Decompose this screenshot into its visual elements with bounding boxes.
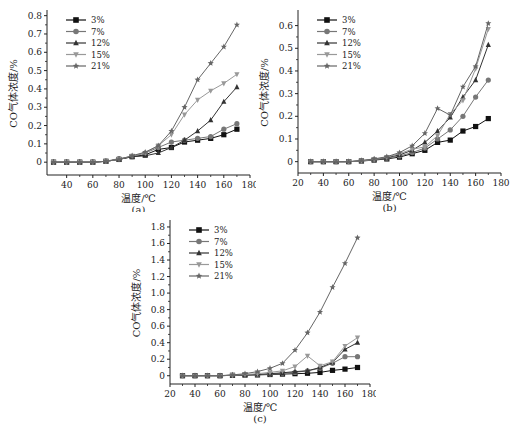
square-marker-icon (355, 365, 360, 370)
circle-marker-icon (342, 354, 347, 359)
chart-b-svg: 2040608010012014016018000.10.20.30.40.50… (256, 0, 513, 212)
series-3pct (51, 127, 240, 165)
y-tick-label: 0.4 (279, 66, 294, 76)
circle-marker-icon (355, 354, 360, 359)
star-marker-icon (485, 20, 491, 26)
legend-item: 12% (66, 38, 110, 48)
y-tick-label: 1.4 (151, 255, 166, 265)
legend: 3%7%12%15%21% (66, 15, 110, 71)
circle-marker-icon (195, 136, 200, 141)
circle-marker-icon (448, 127, 453, 132)
x-axis-title: 温度/℃ (372, 190, 407, 202)
y-tick-label: 0 (36, 157, 42, 167)
legend-label: 12% (342, 38, 361, 48)
circle-marker-icon (234, 121, 239, 126)
star-marker-icon (234, 22, 240, 28)
x-tick-label: 40 (189, 389, 201, 399)
x-tick-label: 120 (163, 180, 180, 190)
x-tick-label: 140 (311, 389, 328, 399)
star-marker-icon (435, 105, 441, 111)
legend-item: 21% (66, 61, 110, 71)
y-tick-label: 0.1 (28, 139, 42, 149)
triangle-marker-icon (473, 77, 478, 82)
series-line (311, 29, 489, 162)
circle-marker-icon (324, 29, 330, 35)
square-marker-icon (473, 124, 478, 129)
series-line (311, 23, 489, 161)
legend-item: 15% (317, 50, 361, 60)
star-marker-icon (221, 44, 227, 50)
legend-item: 7% (317, 27, 356, 37)
y-tick-label: 0.1 (279, 134, 293, 144)
x-tick-label: 20 (164, 389, 176, 399)
y-tick-label: 1.2 (151, 272, 165, 282)
x-tick-label: 40 (61, 180, 73, 190)
circle-marker-icon (169, 139, 174, 144)
x-tick-label: 100 (261, 389, 278, 399)
legend-item: 3% (189, 225, 228, 235)
tri-down-marker-icon (305, 354, 310, 359)
legend-item: 15% (189, 260, 233, 270)
circle-marker-icon (208, 134, 213, 139)
y-axis-title: CO气体浓度/% (258, 58, 270, 127)
x-tick-label: 100 (391, 178, 408, 188)
y-tick-label: 0.6 (151, 321, 166, 331)
x-tick-label: 160 (336, 389, 353, 399)
legend-label: 21% (214, 271, 233, 281)
x-tick-label: 140 (189, 180, 206, 190)
star-marker-icon (342, 260, 348, 266)
star-marker-icon (181, 104, 187, 110)
y-tick-label: 0 (159, 371, 165, 381)
circle-marker-icon (473, 94, 478, 99)
triangle-marker-icon (234, 84, 239, 89)
circle-marker-icon (486, 77, 491, 82)
y-tick-label: 0.4 (151, 338, 166, 348)
series-line (311, 45, 489, 162)
star-marker-icon (304, 330, 310, 336)
tri-down-marker-icon (234, 72, 239, 77)
legend: 3%7%12%15%21% (317, 15, 361, 71)
x-tick-label: 100 (137, 180, 154, 190)
square-marker-icon (324, 17, 330, 23)
x-tick-label: 40 (318, 178, 330, 188)
circle-marker-icon (460, 114, 465, 119)
y-tick-label: 0.4 (28, 84, 43, 94)
x-tick-label: 180 (241, 180, 256, 190)
circle-marker-icon (196, 239, 202, 245)
star-marker-icon (324, 63, 330, 69)
legend-item: 15% (66, 50, 110, 60)
x-tick-label: 60 (214, 389, 226, 399)
tri-down-marker-icon (355, 336, 360, 341)
legend-label: 12% (214, 248, 233, 258)
legend-label: 21% (342, 61, 361, 71)
triangle-marker-icon (486, 42, 491, 47)
y-tick-label: 0.5 (279, 43, 294, 53)
legend-label: 7% (214, 237, 228, 247)
legend-item: 7% (66, 27, 105, 37)
square-marker-icon (196, 227, 202, 233)
y-tick-label: 0.6 (28, 47, 43, 57)
legend-label: 3% (214, 225, 228, 235)
star-marker-icon (317, 309, 323, 315)
chart-a-svg: 40608010012014016018000.10.20.30.40.50.6… (0, 0, 256, 212)
x-axis-title: 温度/℃ (243, 401, 278, 413)
series-21pct (179, 235, 360, 379)
square-marker-icon (330, 368, 335, 373)
chart-panel-a: 40608010012014016018000.10.20.30.40.50.6… (0, 0, 256, 212)
tri-down-marker-icon (208, 89, 213, 94)
x-tick-label: 120 (416, 178, 433, 188)
legend: 3%7%12%15%21% (189, 225, 233, 281)
y-tick-label: 0.2 (279, 111, 293, 121)
star-marker-icon (73, 63, 79, 69)
y-tick-label: 0.3 (28, 102, 43, 112)
series-line (54, 25, 237, 162)
circle-marker-icon (73, 29, 79, 35)
x-tick-label: 180 (492, 178, 509, 188)
series-line (183, 238, 358, 376)
y-tick-label: 1.8 (151, 222, 166, 232)
legend-label: 15% (342, 50, 361, 60)
star-marker-icon (354, 235, 360, 241)
x-axis-title: 温度/℃ (121, 192, 156, 204)
square-marker-icon (221, 132, 226, 137)
legend-item: 3% (66, 15, 105, 25)
